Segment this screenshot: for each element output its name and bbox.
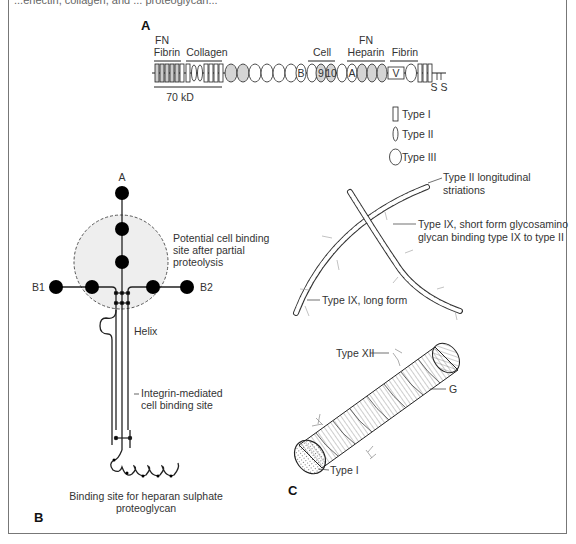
label-type2-2: striations: [443, 184, 485, 196]
type-i-modules-c-terminal: [418, 64, 432, 82]
globule-a2: [115, 222, 129, 236]
panel-a-letter: A: [141, 18, 151, 33]
label-ss: S S: [431, 81, 448, 93]
globule-b2-outer: [180, 280, 194, 294]
panel-c-letter: C: [288, 483, 298, 498]
label-b2: B2: [200, 281, 213, 293]
legend-type-ii-icon: [393, 127, 398, 141]
label-fn-fibrin-1: FN: [155, 34, 169, 46]
collagen-modules: [186, 64, 223, 82]
globule-a1: [115, 186, 129, 200]
label-type9l: Type IX, long form: [322, 294, 407, 306]
module-10: 10: [325, 67, 337, 79]
label-type9s-1: Type IX, short form glycosamino: [418, 218, 568, 230]
heparan-binding-coil: [111, 450, 179, 476]
label-integrin-1: Integrin-mediated: [141, 387, 223, 399]
label-cell: Cell: [313, 46, 331, 58]
label-fn-fibrin-2: Fibrin: [154, 46, 180, 58]
label-integrin-2: cell binding site: [141, 399, 213, 411]
label-potential-3: proteolysis: [173, 256, 223, 268]
label-b1: B1: [32, 281, 45, 293]
label-fn-heparin-2: Heparin: [348, 46, 385, 58]
label-heparan-2: proteoglycan: [116, 502, 176, 514]
arm-b1: [56, 287, 116, 430]
pointer-type-ii: [428, 178, 442, 183]
legend-type-i-label: Type I: [402, 108, 431, 120]
label-potential-1: Potential cell binding: [173, 232, 269, 244]
panel-c: Type II longitudinal striations Type IX,…: [288, 171, 568, 498]
panel-a: A FN Fibrin Collagen Cell FN Heparin Fib…: [141, 18, 447, 165]
label-g: G: [449, 383, 457, 395]
legend-type-iii-label: Type III: [402, 151, 436, 163]
label-helix: Helix: [134, 325, 158, 337]
module-v: V: [392, 67, 399, 79]
globule-b1-inner: [85, 280, 99, 294]
label-type9s-2: glycan binding type IX to type II: [418, 231, 564, 243]
globule-a3: [115, 255, 129, 269]
module-9: 9: [318, 67, 324, 79]
label-type2-1: Type II longitudinal: [443, 171, 531, 183]
label-collagen: Collagen: [186, 46, 228, 58]
label-heparan-1: Binding site for heparan sulphate: [69, 490, 223, 502]
globule-b1-outer: [49, 280, 63, 294]
globule-b2-inner: [146, 280, 160, 294]
label-70kd: 70 kD: [166, 91, 194, 103]
label-fn-heparin-1: FN: [359, 34, 373, 46]
label-potential-2: site after partial: [173, 244, 245, 256]
module-a: A: [348, 67, 355, 79]
label-fibrin: Fibrin: [392, 46, 418, 58]
disulfide-bridges: [114, 291, 131, 439]
panel-b: A B1 B2 Potential cell binding: [32, 171, 269, 525]
label-a-arm: A: [118, 171, 125, 183]
legend-type-iii-icon: [390, 149, 402, 165]
module-b: B: [297, 67, 304, 79]
legend-type-i-icon: [393, 107, 398, 121]
helix-loop: [100, 310, 116, 445]
figure-canvas: A FN Fibrin Collagen Cell FN Heparin Fib…: [0, 0, 576, 544]
legend-type-ii-label: Type II: [402, 128, 434, 140]
label-type12: Type XII: [336, 347, 375, 359]
legend: [390, 107, 402, 165]
type-i-fibril-cylinder: [288, 338, 465, 480]
panel-b-letter: B: [34, 510, 43, 525]
strand-ends: [122, 430, 130, 450]
label-type1: Type I: [330, 464, 359, 476]
